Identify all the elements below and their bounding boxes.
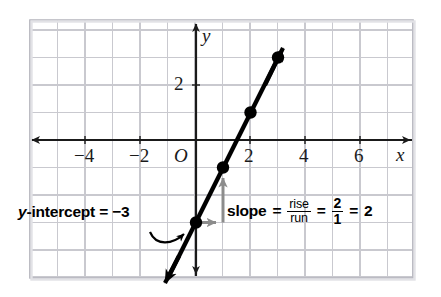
graph-figure: −4 −2 2 4 6 2 O x y y-intercept = −3 slo… bbox=[0, 0, 441, 297]
origin-label: O bbox=[174, 146, 188, 165]
x-axis-label: x bbox=[396, 145, 404, 164]
x-tick-label-2: 2 bbox=[244, 146, 254, 165]
slope-result: 2 bbox=[364, 203, 372, 219]
x-tick-label-6: 6 bbox=[354, 146, 364, 165]
x-tick-label--4: −4 bbox=[74, 146, 94, 165]
x-tick-label--2: −2 bbox=[129, 146, 149, 165]
slope-equals-2: = bbox=[317, 203, 326, 219]
point-2-1 bbox=[244, 106, 256, 118]
slope-denominator-run: run bbox=[287, 211, 310, 225]
slope-equals-3: = bbox=[349, 203, 358, 219]
y-intercept-annotation: y-intercept = −3 bbox=[18, 204, 129, 220]
coordinate-plane bbox=[0, 0, 441, 297]
slope-annotation: slope = rise run = 2 1 = 2 bbox=[227, 196, 372, 226]
slope-numerator-2: 2 bbox=[332, 196, 344, 211]
slope-fraction-rise-run: rise run bbox=[287, 198, 310, 225]
point-1-neg1 bbox=[217, 161, 229, 173]
point-y-intercept bbox=[190, 216, 202, 228]
slope-equals-1: = bbox=[272, 203, 281, 219]
point-3-3 bbox=[272, 51, 284, 63]
y-tick-label-2: 2 bbox=[174, 74, 184, 93]
slope-denominator-1: 1 bbox=[332, 211, 344, 227]
slope-numerator-rise: rise bbox=[287, 198, 310, 211]
x-tick-label-4: 4 bbox=[299, 146, 309, 165]
y-intercept-rest: -intercept = −3 bbox=[26, 203, 129, 220]
slope-fraction-2-1: 2 1 bbox=[332, 196, 344, 226]
y-axis-label: y bbox=[202, 26, 210, 45]
slope-label: slope bbox=[227, 203, 266, 219]
